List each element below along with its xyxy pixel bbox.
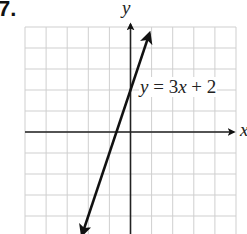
equation-rest: + 2	[187, 76, 217, 97]
equation-var: x	[178, 76, 186, 97]
x-axis-label: x	[240, 119, 247, 141]
line-y-equals-3x-plus-2	[82, 33, 150, 234]
coordinate-plane	[0, 0, 247, 234]
equation-label: y = 3x + 2	[139, 77, 217, 97]
y-axis-label: y	[122, 0, 130, 19]
equation-eq: = 3	[148, 76, 178, 97]
